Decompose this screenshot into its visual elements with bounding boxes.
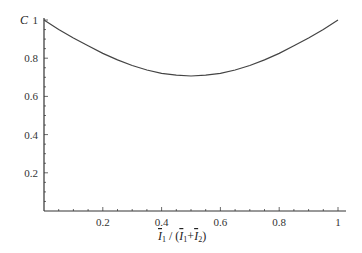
- x-tick-label: 1: [335, 216, 341, 228]
- y-tick-label: 0.6: [24, 90, 38, 102]
- data-line-C: [44, 20, 338, 76]
- y-tick-labels: 0.20.40.60.81: [24, 14, 38, 179]
- x-tick-label: 0.2: [96, 216, 110, 228]
- y-tick-label: 0.2: [24, 167, 38, 179]
- chart: 0.20.40.60.81 0.20.40.60.81 C I1 / (I1+I…: [0, 0, 362, 253]
- y-axis-title: C: [20, 13, 29, 27]
- x-tick-labels: 0.20.40.60.81: [96, 216, 341, 228]
- x-tick-label: 0.8: [272, 216, 286, 228]
- y-tick-label: 0.8: [24, 52, 38, 64]
- y-tick-label: 1: [33, 14, 39, 26]
- x-tick-label: 0.4: [155, 216, 169, 228]
- axis-ticks: [44, 20, 338, 211]
- x-tick-label: 0.6: [214, 216, 228, 228]
- x-axis-title: I1 / (I1+I2): [157, 229, 206, 244]
- y-tick-label: 0.4: [24, 129, 38, 141]
